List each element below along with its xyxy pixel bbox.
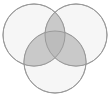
venn-diagram-figure: [0, 0, 110, 100]
venn-diagram-canvas: [0, 0, 110, 100]
